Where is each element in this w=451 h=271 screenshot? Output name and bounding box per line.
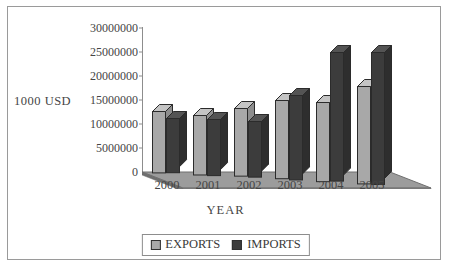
y-tick-label: 0 xyxy=(132,165,138,180)
bar-exports-2002 xyxy=(234,108,247,177)
x-tick-label-2003: 2003 xyxy=(278,178,303,193)
x-tick-label-2000: 2000 xyxy=(155,178,180,193)
x-tick-label-2001: 2001 xyxy=(196,178,221,193)
y-tick-label: 20000000 xyxy=(90,69,138,84)
bar-shape xyxy=(166,111,188,175)
bar-imports-2001 xyxy=(207,119,220,176)
bar-imports-2003 xyxy=(289,95,302,180)
bar-shape xyxy=(207,112,229,178)
bar-shape xyxy=(248,114,270,180)
legend-label: IMPORTS xyxy=(247,237,300,252)
bar-imports-2004 xyxy=(330,52,343,182)
legend-swatch-icon xyxy=(150,240,160,250)
y-tick-label: 25000000 xyxy=(90,45,138,60)
y-tick-label: 10000000 xyxy=(90,117,138,132)
y-tick-label: 30000000 xyxy=(90,21,138,36)
bar-exports-2005 xyxy=(357,86,370,184)
x-tick-label-2004: 2004 xyxy=(319,178,344,193)
bar-exports-2003 xyxy=(275,100,288,179)
x-tick-label-2002: 2002 xyxy=(237,178,262,193)
x-tick-label-2005: 2005 xyxy=(360,178,385,193)
legend-swatch-icon xyxy=(232,240,242,250)
bar-imports-2005 xyxy=(371,52,384,185)
legend-item-exports: EXPORTS xyxy=(150,237,220,252)
y-axis-tick-labels: 0500000010000000150000002000000025000000… xyxy=(52,0,138,271)
bar-imports-2002 xyxy=(248,121,261,178)
bar-shape xyxy=(371,45,393,187)
bar-exports-2000 xyxy=(152,111,165,173)
x-axis-title: YEAR xyxy=(0,203,451,218)
legend-item-imports: IMPORTS xyxy=(232,237,300,252)
bar-exports-2001 xyxy=(193,115,206,175)
bar-imports-2000 xyxy=(166,118,179,173)
y-tick-label: 5000000 xyxy=(96,141,138,156)
bar-shape xyxy=(289,88,311,182)
bar-chart: 1000 USD 0500000010000000150000002000000… xyxy=(0,0,451,271)
y-tick-label: 15000000 xyxy=(90,93,138,108)
legend-label: EXPORTS xyxy=(165,237,220,252)
chart-legend: EXPORTSIMPORTS xyxy=(141,234,309,256)
y-axis-line xyxy=(142,27,143,174)
bar-exports-2004 xyxy=(316,102,329,182)
bar-shape xyxy=(330,45,352,184)
